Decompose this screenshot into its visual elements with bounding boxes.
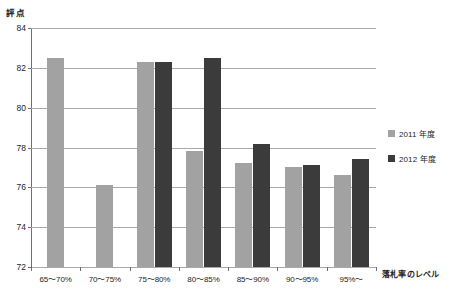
bar xyxy=(303,165,320,267)
bar xyxy=(155,62,172,267)
bar xyxy=(285,167,302,267)
bar xyxy=(47,58,64,267)
gridline xyxy=(31,28,376,29)
plot-frame: 72747678808284 65〜70%70〜75%75〜80%80〜85%8… xyxy=(31,28,376,267)
x-tick-mark xyxy=(376,267,377,271)
x-tick-label: 85〜90% xyxy=(237,273,269,284)
x-tick-label: 95%〜 xyxy=(340,273,364,284)
y-tick-mark xyxy=(28,148,31,149)
y-axis-title: 評点 xyxy=(6,6,25,18)
bar xyxy=(352,159,369,267)
x-tick-label: 80〜85% xyxy=(187,273,219,284)
bar xyxy=(253,144,270,267)
legend-item-label: 2011 年度 xyxy=(399,128,435,139)
x-tick-mark xyxy=(31,267,32,271)
x-tick-label: 65〜70% xyxy=(39,273,71,284)
y-tick-label: 84 xyxy=(17,23,26,33)
y-tick-mark xyxy=(28,68,31,69)
y-tick-mark xyxy=(28,28,31,29)
y-tick-label: 76 xyxy=(17,182,26,192)
bar xyxy=(96,185,113,267)
legend-swatch-icon xyxy=(388,155,395,162)
y-tick-mark xyxy=(28,227,31,228)
plot-area: 72747678808284 65〜70%70〜75%75〜80%80〜85%8… xyxy=(31,28,376,267)
bar xyxy=(235,163,252,267)
x-tick-label: 75〜80% xyxy=(138,273,170,284)
x-tick-mark xyxy=(130,267,131,271)
bar xyxy=(137,62,154,267)
x-axis-title: 落札率のレベル xyxy=(382,268,439,279)
y-tick-label: 82 xyxy=(17,63,26,73)
x-tick-mark xyxy=(327,267,328,271)
x-tick-label: 70〜75% xyxy=(89,273,121,284)
y-tick-label: 80 xyxy=(17,103,26,113)
legend-item-label: 2012 年度 xyxy=(399,153,436,164)
y-tick-label: 72 xyxy=(17,262,26,272)
x-tick-mark xyxy=(228,267,229,271)
bar xyxy=(334,175,351,267)
y-tick-mark xyxy=(28,108,31,109)
x-tick-mark xyxy=(80,267,81,271)
y-tick-label: 78 xyxy=(17,143,26,153)
x-tick-mark xyxy=(277,267,278,271)
gridline xyxy=(31,267,376,268)
y-tick-label: 74 xyxy=(17,222,26,232)
x-tick-label: 90〜95% xyxy=(286,273,318,284)
legend: 2011 年度2012 年度 xyxy=(388,128,448,178)
legend-swatch-icon xyxy=(388,130,395,137)
bar xyxy=(186,151,203,267)
x-tick-mark xyxy=(179,267,180,271)
legend-item[interactable]: 2011 年度 xyxy=(388,128,448,139)
legend-item[interactable]: 2012 年度 xyxy=(388,153,448,164)
y-tick-mark xyxy=(28,187,31,188)
bar xyxy=(204,58,221,267)
bar-chart: 評点 落札率のレベル 72747678808284 65〜70%70〜75%75… xyxy=(0,0,450,289)
